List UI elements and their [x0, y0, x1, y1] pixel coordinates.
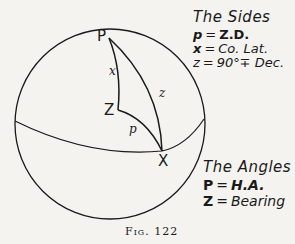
- sides-title: The Sides: [193, 10, 284, 25]
- sides-row-x: x=Co. Lat.: [193, 42, 284, 55]
- point-p-label: P: [97, 29, 106, 44]
- angles-row-p: P=H.A.: [203, 178, 291, 192]
- angles-row-z: Z=Bearing: [203, 194, 291, 208]
- arc-x-label: x: [109, 65, 116, 77]
- horizon-arc: [15, 119, 204, 152]
- sphere-outline: [15, 29, 205, 219]
- angles-legend: The Angles P=H.A. Z=Bearing: [203, 160, 291, 208]
- figure-caption: Fig. 122: [125, 226, 178, 237]
- arc-p-label: p: [129, 123, 137, 135]
- point-x-label: X: [158, 154, 168, 169]
- point-z-label: Z: [104, 103, 114, 118]
- sides-row-p: p=Z.D.: [193, 28, 284, 41]
- arc-p-zx: [118, 110, 162, 151]
- sides-row-z: z=90°∓ Dec.: [193, 56, 284, 69]
- angles-title: The Angles: [203, 160, 291, 175]
- arc-z-label: z: [159, 87, 165, 99]
- sides-legend: The Sides p=Z.D. x=Co. Lat. z=90°∓ Dec.: [193, 10, 284, 69]
